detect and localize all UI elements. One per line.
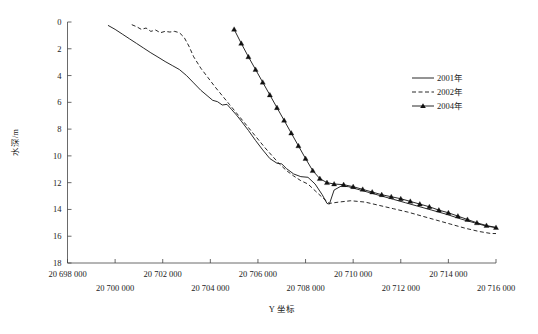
y-tick-label: 18 (53, 258, 62, 268)
x-tick-label: 20 708 000 (286, 283, 324, 293)
data-marker (246, 54, 251, 59)
y-tick-label: 2 (57, 44, 61, 54)
axis-spines (68, 22, 497, 263)
data-marker (267, 92, 272, 97)
series-1 (108, 25, 496, 227)
series-line (132, 25, 496, 234)
x-tick-label: 20 712 000 (382, 283, 420, 293)
y-tick-label: 12 (53, 178, 62, 188)
x-tick-label: 20 700 000 (96, 283, 134, 293)
data-marker (274, 105, 279, 110)
y-tick-label: 6 (57, 97, 61, 107)
legend-item-2[interactable]: 2002年 (412, 87, 463, 97)
data-marker (253, 67, 258, 72)
y-tick-label: 0 (57, 17, 61, 27)
y-tick-label: 10 (53, 151, 62, 161)
x-tick-label: 20 698 000 (48, 269, 86, 279)
y-tick-label: 4 (57, 71, 62, 81)
depth-profile-chart: 02468101214161820 698 00020 700 00020 70… (0, 0, 538, 334)
legend-label: 2002年 (437, 87, 463, 97)
legend-item-1[interactable]: 2001年 (412, 73, 463, 83)
x-tick-label: 20 706 000 (239, 269, 277, 279)
data-marker (303, 156, 308, 161)
x-tick-label: 20 710 000 (334, 269, 372, 279)
data-marker (239, 41, 244, 46)
legend-label: 2004年 (437, 101, 463, 111)
y-tick-label: 14 (53, 204, 62, 214)
x-tick-label: 20 714 000 (429, 269, 467, 279)
x-tick-label: 20 704 000 (191, 283, 229, 293)
series-line (108, 25, 496, 227)
series-3 (232, 27, 499, 230)
data-marker (324, 180, 329, 185)
y-axis-title: 水深/m (10, 129, 20, 156)
data-marker (232, 27, 237, 32)
data-marker (289, 131, 294, 136)
legend-label: 2001年 (437, 73, 463, 83)
series-2 (132, 25, 496, 234)
x-tick-label: 20 716 000 (477, 283, 515, 293)
x-tick-label: 20 702 000 (144, 269, 182, 279)
data-marker (282, 118, 287, 123)
legend-item-3[interactable]: 2004年 (412, 101, 463, 111)
data-marker (310, 168, 315, 173)
y-tick-label: 16 (53, 231, 62, 241)
y-tick-label: 8 (57, 124, 61, 134)
data-marker (296, 143, 301, 148)
data-marker (260, 80, 265, 85)
series-line (234, 29, 496, 227)
x-axis-title: Y 坐标 (269, 304, 295, 314)
chart-container: 02468101214161820 698 00020 700 00020 70… (0, 0, 538, 334)
